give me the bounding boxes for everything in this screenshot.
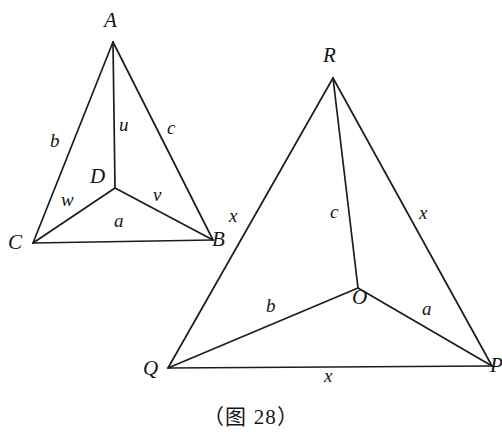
vertex-label-P: P — [490, 355, 502, 376]
segment-label-b-left: b — [50, 131, 60, 150]
figure-28-container: A C B D b c a u w v R Q P O x x x c b a … — [0, 0, 502, 442]
segment-label-x-bottom-side: x — [324, 366, 332, 385]
segment-label-w: w — [61, 190, 74, 209]
vertex-label-A: A — [104, 10, 117, 31]
right-triangle-group — [168, 78, 492, 368]
segment-label-x-right-side: x — [419, 203, 427, 222]
segment-C-B — [33, 240, 213, 243]
segment-label-u: u — [119, 115, 129, 134]
segment-R-O — [333, 78, 358, 288]
segment-A-D — [113, 42, 115, 188]
segment-D-B — [115, 188, 213, 240]
vertex-label-R: R — [323, 45, 336, 66]
segment-R-Q — [168, 78, 333, 368]
vertex-label-D: D — [90, 166, 105, 187]
figure-caption: （图 28） — [0, 400, 502, 430]
vertex-label-C: C — [8, 232, 22, 253]
segment-label-a-left: a — [114, 211, 124, 230]
vertex-label-O: O — [352, 287, 367, 308]
vertex-label-B: B — [212, 229, 225, 250]
segment-label-c-left: c — [167, 118, 175, 137]
segment-label-x-left-side: x — [229, 206, 237, 225]
vertex-label-Q: Q — [143, 358, 158, 379]
segment-A-C — [33, 42, 113, 243]
segment-O-Q — [168, 288, 358, 368]
segment-A-B — [113, 42, 213, 240]
segment-label-c-right: c — [330, 202, 338, 221]
segment-label-a-right: a — [422, 299, 432, 318]
segment-label-v: v — [153, 185, 161, 204]
segment-D-C — [33, 188, 115, 243]
segment-label-b-right: b — [266, 296, 276, 315]
segment-R-P — [333, 78, 492, 366]
